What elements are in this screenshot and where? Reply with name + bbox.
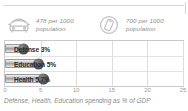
mobile-phone-circle-icon: [97, 14, 121, 36]
stat-cars-value: 478 per 1000: [36, 17, 74, 24]
x-tick-label: 15: [109, 87, 115, 93]
stat-phones-label: 700 per 1000 population: [126, 17, 164, 32]
x-tick-label: 10: [73, 87, 79, 93]
stat-cars-label: 478 per 1000 population: [36, 17, 74, 32]
car-icon: [7, 14, 31, 36]
gridline: [183, 41, 184, 86]
stat-phones: 700 per 1000 population: [93, 14, 188, 36]
x-axis: 0510152025: [4, 87, 184, 96]
x-tick-label: 0: [3, 87, 6, 93]
bar-label-defense: Defense 3%: [14, 45, 50, 52]
top-divider: [3, 5, 184, 6]
chart-plot-area: Defense 3%Education 5%Health 5.7%: [5, 41, 183, 86]
stat-cars-unit: population: [36, 25, 66, 32]
stat-cars: 478 per 1000 population: [0, 14, 93, 36]
x-tick-label: 5: [39, 87, 42, 93]
bar-row[interactable]: Education 5%: [5, 56, 183, 71]
infographic-panel: 478 per 1000 population 700 per 1000 pop…: [0, 0, 188, 111]
stats-row: 478 per 1000 population 700 per 1000 pop…: [0, 12, 188, 38]
bar-label-education: Education 5%: [14, 60, 56, 67]
x-tick-label: 25: [180, 87, 186, 93]
bar-label-health: Health 5.7%: [14, 75, 50, 82]
stat-phones-unit: population: [126, 25, 156, 32]
chart-caption: Defense, Health, Education spending as %…: [4, 97, 186, 104]
bar-row[interactable]: Health 5.7%: [5, 71, 183, 86]
stat-phones-value: 700 per 1000: [126, 17, 164, 24]
x-tick-label: 20: [144, 87, 150, 93]
bar-chart: Defense 3%Education 5%Health 5.7%: [4, 40, 184, 87]
bar-row[interactable]: Defense 3%: [5, 41, 183, 56]
